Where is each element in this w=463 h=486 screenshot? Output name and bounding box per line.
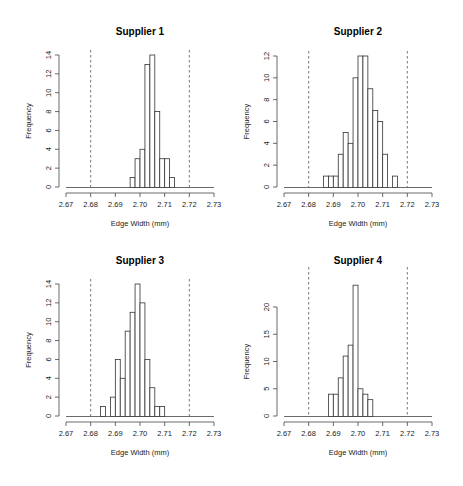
x-tick-label: 2.67 — [59, 200, 74, 209]
histogram-bar — [150, 55, 155, 188]
histogram-bar — [120, 378, 125, 416]
histogram-bar — [363, 394, 368, 416]
histogram-bar — [328, 176, 333, 187]
histogram-bar — [348, 143, 353, 187]
histogram-bar — [333, 176, 338, 187]
histogram-bar — [145, 359, 150, 416]
y-tick-label: 8 — [44, 338, 53, 342]
y-tick-label: 2 — [44, 395, 53, 399]
histogram-bar — [378, 122, 383, 188]
y-tick-label: 0 — [44, 414, 53, 418]
histogram-bar — [368, 89, 373, 188]
y-tick-label: 5 — [262, 387, 271, 391]
histogram-bar — [358, 56, 363, 188]
panel-supplier-1: Supplier 102468101214Frequency2.672.682.… — [24, 26, 221, 228]
y-tick-label: 0 — [44, 185, 53, 189]
y-tick-label: 12 — [44, 299, 53, 307]
y-tick-label: 4 — [44, 147, 53, 151]
x-tick-label: 2.70 — [351, 429, 366, 438]
histogram-bar — [328, 394, 333, 416]
chart-title: Supplier 2 — [334, 26, 383, 37]
x-tick-label: 2.72 — [400, 200, 415, 209]
histogram-figure: Supplier 102468101214Frequency2.672.682.… — [0, 0, 463, 486]
y-tick-label: 0 — [262, 414, 271, 418]
panel-supplier-3: Supplier 302468101214Frequency2.672.682.… — [24, 255, 221, 457]
x-tick-label: 2.73 — [207, 200, 222, 209]
histogram-bar — [160, 159, 165, 188]
y-tick-label: 12 — [44, 70, 53, 78]
x-tick-label: 2.73 — [425, 429, 440, 438]
y-tick-label: 2 — [262, 163, 271, 167]
histogram-bar — [353, 285, 358, 416]
x-tick-label: 2.72 — [182, 200, 197, 209]
x-tick-label: 2.69 — [108, 200, 123, 209]
x-tick-label: 2.71 — [157, 429, 172, 438]
histogram-bar — [135, 284, 140, 417]
x-tick-label: 2.71 — [375, 200, 390, 209]
y-tick-label: 20 — [262, 303, 271, 311]
histogram-bar — [348, 345, 353, 416]
histogram-bar — [353, 78, 358, 188]
histogram-bar — [338, 378, 343, 417]
y-axis-label: Frequency — [242, 104, 251, 140]
y-tick-label: 2 — [44, 166, 53, 170]
x-tick-label: 2.70 — [351, 200, 366, 209]
y-tick-label: 0 — [262, 185, 271, 189]
x-tick-label: 2.69 — [326, 200, 341, 209]
histogram-bar — [333, 394, 338, 416]
histogram-bar — [135, 159, 140, 188]
histogram-bar — [145, 64, 150, 187]
x-tick-label: 2.67 — [277, 429, 292, 438]
histogram-bar — [115, 359, 120, 416]
x-tick-label: 2.69 — [108, 429, 123, 438]
y-tick-label: 10 — [262, 357, 271, 365]
histogram-bar — [373, 111, 378, 188]
histogram-bar — [170, 178, 175, 188]
panel-supplier-4: Supplier 405101520Frequency2.672.682.692… — [242, 255, 439, 457]
x-tick-label: 2.70 — [133, 200, 148, 209]
y-tick-label: 4 — [44, 376, 53, 380]
y-tick-label: 8 — [262, 98, 271, 102]
histogram-bar — [101, 407, 106, 417]
x-tick-label: 2.71 — [375, 429, 390, 438]
y-axis-label: Frequency — [24, 332, 33, 368]
x-tick-label: 2.68 — [83, 429, 98, 438]
histogram-bar — [155, 407, 160, 417]
histogram-bar — [323, 176, 328, 187]
x-tick-label: 2.69 — [326, 429, 341, 438]
histogram-bar — [130, 178, 135, 188]
histogram-bar — [130, 312, 135, 416]
histogram-bar — [363, 56, 368, 188]
y-tick-label: 10 — [44, 318, 53, 326]
y-tick-label: 10 — [262, 74, 271, 82]
histogram-bar — [358, 389, 363, 417]
x-tick-label: 2.68 — [301, 429, 316, 438]
panel-supplier-2: Supplier 2024681012Frequency2.672.682.69… — [242, 26, 439, 228]
x-tick-label: 2.70 — [133, 429, 148, 438]
histogram-bar — [368, 400, 373, 417]
chart-title: Supplier 4 — [334, 255, 383, 266]
chart-title: Supplier 3 — [116, 255, 165, 266]
x-tick-label: 2.71 — [157, 200, 172, 209]
y-tick-label: 6 — [44, 128, 53, 132]
x-tick-label: 2.68 — [83, 200, 98, 209]
x-tick-label: 2.68 — [301, 200, 316, 209]
histogram-bar — [140, 149, 145, 187]
y-tick-label: 10 — [44, 89, 53, 97]
x-tick-label: 2.72 — [182, 429, 197, 438]
y-tick-label: 14 — [44, 280, 53, 288]
x-tick-label: 2.67 — [277, 200, 292, 209]
y-tick-label: 12 — [262, 52, 271, 60]
histogram-bar — [150, 388, 155, 417]
y-axis-label: Frequency — [242, 344, 251, 380]
y-tick-label: 4 — [262, 141, 271, 145]
y-tick-label: 14 — [44, 51, 53, 59]
histogram-bar — [383, 154, 388, 187]
histogram-grid: Supplier 102468101214Frequency2.672.682.… — [0, 0, 463, 486]
y-tick-label: 15 — [262, 330, 271, 338]
x-axis-label: Edge Width (mm) — [329, 448, 388, 457]
histogram-bar — [343, 132, 348, 187]
x-axis-label: Edge Width (mm) — [329, 219, 388, 228]
histogram-bar — [155, 112, 160, 188]
y-tick-label: 6 — [262, 119, 271, 123]
